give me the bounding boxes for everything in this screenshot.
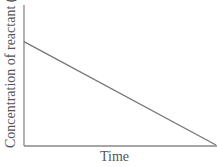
y-axis-label: Concentration of reactant (M) xyxy=(3,8,21,148)
x-axis-label: Time xyxy=(100,149,129,165)
reactant-line xyxy=(24,42,216,145)
chart-area xyxy=(0,0,217,167)
